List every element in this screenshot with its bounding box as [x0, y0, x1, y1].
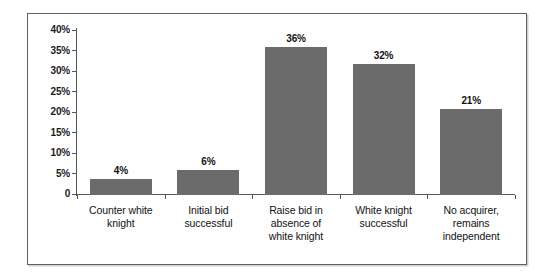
x-axis-category-line: successful — [167, 217, 251, 230]
y-tick-mark — [72, 50, 76, 51]
y-tick-label: 5% — [56, 168, 70, 180]
x-axis-category-line: No acquirer, — [429, 204, 513, 217]
y-tick-5pct: 5% — [56, 168, 76, 180]
bar[interactable]: 32% — [353, 64, 415, 195]
y-tick-40pct: 40% — [51, 24, 76, 36]
y-tick-mark — [72, 153, 76, 154]
bar[interactable]: 36% — [265, 47, 327, 195]
x-axis-category-line: remains — [429, 217, 513, 230]
x-axis-category-line: independent — [429, 230, 513, 243]
y-tick-10pct: 10% — [51, 147, 76, 159]
y-tick-mark — [72, 173, 76, 174]
y-tick-35pct: 35% — [51, 45, 76, 57]
x-axis-category-label: No acquirer,remainsindependent — [427, 204, 515, 243]
x-axis-category-line: knight — [79, 217, 163, 230]
bar-value-label: 6% — [201, 156, 215, 167]
x-axis-category-line: absence of — [254, 217, 338, 230]
x-axis-category-label: Counter whiteknight — [77, 204, 165, 243]
chart-frame: Success Rate 40%35%30%25%20%15%10%5%0 4%… — [27, 13, 527, 265]
x-axis-category-label: Initial bidsuccessful — [165, 204, 253, 243]
bar-value-label: 21% — [461, 95, 480, 106]
x-axis-category-line: White knight — [342, 204, 426, 217]
x-axis-category-line: Counter white — [79, 204, 163, 217]
bar-value-label: 36% — [286, 33, 305, 44]
y-tick-label: 30% — [51, 65, 70, 77]
x-tick-mark — [340, 195, 341, 199]
x-axis-category-line: Raise bid in — [254, 204, 338, 217]
bar[interactable]: 4% — [90, 179, 152, 195]
y-tick-mark — [72, 71, 76, 72]
bar-value-label: 4% — [114, 165, 128, 176]
x-axis-ticks — [77, 195, 515, 200]
y-tick-mark — [72, 30, 76, 31]
y-tick-15pct: 15% — [51, 127, 76, 139]
bar-slot: 36% — [252, 14, 340, 195]
bar[interactable]: 21% — [440, 109, 502, 195]
y-tick-label: 25% — [51, 86, 70, 98]
x-axis-labels: Counter whiteknightInitial bidsuccessful… — [77, 204, 515, 243]
x-axis-category-label: Raise bid inabsence ofwhite knight — [252, 204, 340, 243]
x-tick-mark — [252, 195, 253, 199]
y-tick-label: 40% — [51, 24, 70, 36]
bar-slot: 6% — [165, 14, 253, 195]
y-tick-25pct: 25% — [51, 86, 76, 98]
bar-slot: 4% — [77, 14, 165, 195]
bar-value-label: 32% — [374, 50, 393, 61]
bar-series: 4%6%36%32%21% — [77, 14, 515, 195]
x-axis-category-line: white knight — [254, 230, 338, 243]
x-axis-category-line: successful — [342, 217, 426, 230]
y-tick-label: 35% — [51, 45, 70, 57]
y-tick-label: 20% — [51, 106, 70, 118]
y-tick-mark — [72, 112, 76, 113]
y-tick-label: 15% — [51, 127, 70, 139]
y-tick-label: 0 — [65, 188, 70, 200]
x-tick-mark — [427, 195, 428, 199]
y-tick-20pct: 20% — [51, 106, 76, 118]
y-tick-mark — [72, 194, 76, 195]
bar-slot: 32% — [340, 14, 428, 195]
y-tick-label: 10% — [51, 147, 70, 159]
x-axis-category-label: White knightsuccessful — [340, 204, 428, 243]
y-tick-0: 0 — [65, 188, 76, 200]
bar[interactable]: 6% — [177, 170, 239, 195]
bar-slot: 21% — [427, 14, 515, 195]
x-tick-mark — [77, 195, 78, 199]
y-tick-mark — [72, 91, 76, 92]
y-tick-30pct: 30% — [51, 65, 76, 77]
x-tick-mark — [515, 195, 516, 199]
x-tick-mark — [165, 195, 166, 199]
y-tick-mark — [72, 132, 76, 133]
x-axis-category-line: Initial bid — [167, 204, 251, 217]
y-axis-ticks: 40%35%30%25%20%15%10%5%0 — [28, 14, 76, 210]
